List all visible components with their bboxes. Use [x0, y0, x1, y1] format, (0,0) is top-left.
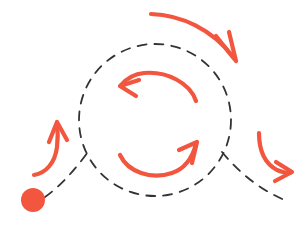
inner-upper-arrow	[120, 73, 196, 101]
diagram-canvas	[0, 0, 308, 231]
entry-dashed-line	[45, 152, 88, 197]
exit-dashed-line	[222, 152, 287, 201]
dashed-loop-circle	[79, 44, 231, 196]
top-outer-arrow-head	[216, 32, 236, 61]
right-outer-arrow	[259, 133, 292, 181]
cyclic-loop-diagram	[0, 0, 308, 231]
inner-lower-arrow	[120, 142, 197, 176]
inner-upper-arrow-shaft	[121, 73, 196, 101]
left-outer-arrow	[34, 122, 67, 175]
start-node-dot	[21, 188, 45, 212]
top-outer-arrow-shaft	[151, 14, 233, 57]
